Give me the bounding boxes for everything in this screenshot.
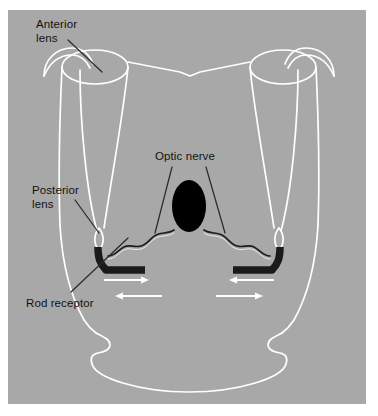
right-body-outline-icon	[282, 225, 318, 333]
right-posterior-lens-icon	[275, 228, 283, 250]
right-anterior-lens-top-icon	[250, 50, 316, 84]
left-anterior-lens-top-icon	[62, 50, 128, 84]
arrow-upper-right	[229, 277, 274, 284]
leader-line-group	[68, 40, 225, 292]
right-lens-cylinder-left-wall-icon	[250, 67, 274, 228]
leader-line-optic-nerve-right	[206, 167, 225, 233]
left-body-outline-icon	[60, 225, 96, 333]
bottom-skirt-icon	[91, 333, 287, 392]
left-optic-nerve-branch-icon	[108, 230, 174, 256]
optic-nerve-body-icon	[172, 180, 206, 232]
arrow-upper-left	[104, 277, 149, 284]
top-bridge-icon	[128, 62, 250, 76]
right-lens-cylinder-right-wall-icon	[316, 67, 319, 225]
direction-arrow-group	[104, 277, 274, 300]
arrow-lower-right	[216, 293, 263, 300]
right-inner-taper-icon	[281, 70, 298, 231]
label-anterior-lens: Anterior lens	[36, 18, 77, 45]
arrow-lower-left	[115, 293, 162, 300]
right-rod-receptor-icon	[233, 247, 280, 270]
label-rod-receptor: Rod receptor	[26, 297, 94, 311]
left-inner-taper-icon	[80, 70, 97, 231]
label-posterior-lens: Posterior lens	[32, 184, 79, 211]
left-rod-receptor-icon	[98, 247, 145, 270]
leader-line-optic-nerve-left	[155, 167, 172, 233]
left-posterior-lens-icon	[95, 228, 103, 250]
figure-page: Anterior lens Posterior lens Rod recepto…	[0, 0, 378, 416]
right-optic-nerve-branch-icon	[204, 230, 270, 256]
leader-line-rod-receptor	[71, 238, 128, 292]
optic-nerve-branch-group	[108, 230, 270, 256]
left-lens-cylinder-right-wall-icon	[104, 67, 128, 228]
label-optic-nerve: Optic nerve	[155, 150, 215, 164]
